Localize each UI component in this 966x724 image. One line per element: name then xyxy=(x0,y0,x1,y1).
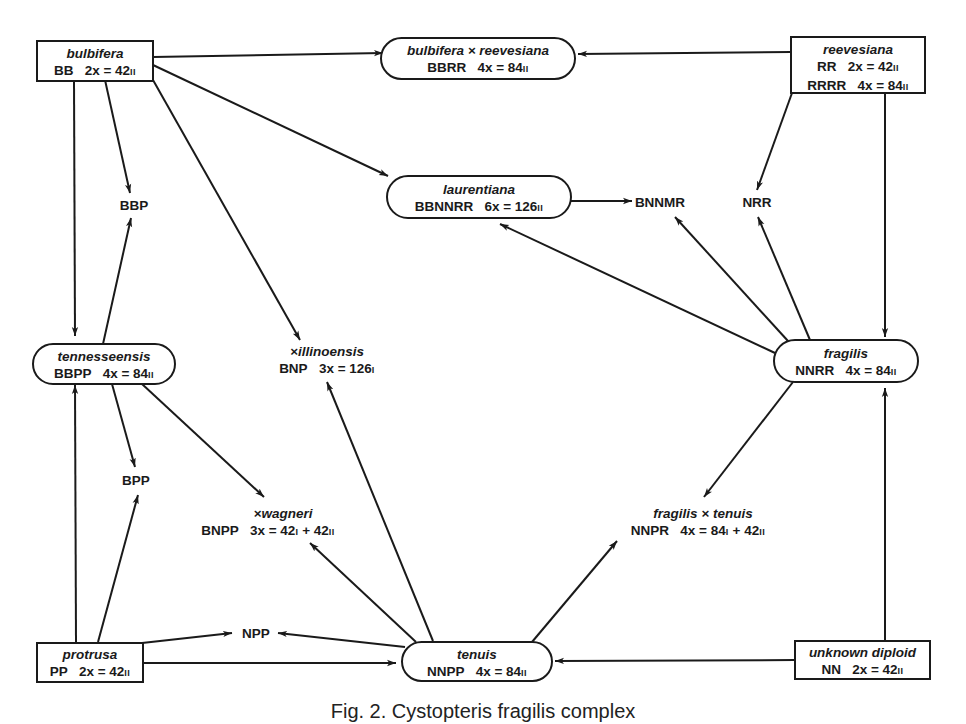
node-bulbifera-x-reevesiana: bulbifera × reevesiana BBRR 4x = 84II xyxy=(380,37,576,80)
node-laurentiana: laurentiana BBNNRR 6x = 126II xyxy=(386,175,572,219)
edge-protrusa-to-bpp xyxy=(98,495,138,642)
edge-protrusa-to-npp xyxy=(142,633,232,643)
node-fragilis: fragilis NNRR 4x = 84II xyxy=(773,339,919,383)
node-wagneri-genome: BNPP 3x = 42I + 42II xyxy=(168,522,368,541)
edge-bulbifera-to-bbp xyxy=(105,80,130,193)
node-bulbifera-x-reevesiana-name: bulbifera × reevesiana xyxy=(382,42,574,59)
node-bulbifera-name: bulbifera xyxy=(38,45,152,62)
node-bulbifera-x-reevesiana-genome: BBRR 4x = 84II xyxy=(382,59,574,78)
node-reevesiana: reevesiana RR 2x = 42II RRRR 4x = 84II xyxy=(790,36,926,94)
node-tennesseensis: tennesseensis BBPP 4x = 84II xyxy=(32,343,176,385)
node-illinoensis-name: ×illinoensis xyxy=(272,343,382,360)
node-illinoensis: ×illinoensis BNP 3x = 126I xyxy=(272,343,382,379)
node-tenuis: tenuis NNPP 4x = 84II xyxy=(401,641,553,682)
edge-bulbifera-to-laurentiana xyxy=(153,65,388,176)
edge-tenuis-to-fragilis-x-tenuis xyxy=(532,541,617,642)
node-fragilis-genome: NNRR 4x = 84II xyxy=(775,362,917,381)
node-protrusa-genome: PP 2x = 42II xyxy=(38,663,142,682)
edge-fragilis-to-bnnmr xyxy=(675,217,788,341)
node-bbp: BBP xyxy=(114,197,154,214)
node-tenuis-genome: NNPP 4x = 84II xyxy=(403,663,551,682)
edge-fragilis-to-fragilis-x-tenuis xyxy=(704,382,793,497)
edge-reevesiana-to-bulbifera-x-reevesiana xyxy=(578,52,791,54)
node-wagneri-name: ×wagneri xyxy=(168,505,368,522)
edge-reevesiana-to-nrr xyxy=(757,93,792,190)
node-unknown-diploid: unknown diploid NN 2x = 42II xyxy=(794,640,931,680)
edge-bulbifera-to-tennesseensis xyxy=(74,80,75,336)
node-tenuis-name: tenuis xyxy=(403,646,551,663)
node-laurentiana-name: laurentiana xyxy=(388,181,570,198)
node-laurentiana-genome: BBNNRR 6x = 126II xyxy=(388,198,570,217)
node-bpp: BPP xyxy=(116,472,156,489)
node-tennesseensis-genome: BBPP 4x = 84II xyxy=(34,365,174,384)
node-tennesseensis-name: tennesseensis xyxy=(34,348,174,365)
edge-fragilis-to-nrr xyxy=(758,217,810,340)
node-nrr: NRR xyxy=(737,194,777,211)
node-protrusa: protrusa PP 2x = 42II xyxy=(36,642,144,683)
edge-tennesseensis-to-wagneri xyxy=(142,384,264,497)
node-fragilis-x-tenuis: fragilis × tenuis NNPR 4x = 84I + 42II xyxy=(608,505,788,541)
edge-tennesseensis-to-bpp xyxy=(112,384,135,467)
node-bnnmr: BNNMR xyxy=(632,194,688,211)
figure-caption: Fig. 2. Cystopteris fragilis complex xyxy=(0,700,966,723)
node-npp: NPP xyxy=(236,625,276,642)
edge-bulbifera-to-illinoensis xyxy=(153,80,300,340)
node-reevesiana-name: reevesiana xyxy=(792,41,924,58)
edge-tennesseensis-to-bbp xyxy=(103,218,131,344)
node-fragilis-name: fragilis xyxy=(775,345,917,362)
node-unknown-diploid-name: unknown diploid xyxy=(796,644,929,661)
edge-tenuis-to-npp xyxy=(278,633,405,647)
node-unknown-diploid-genome: NN 2x = 42II xyxy=(796,661,929,680)
edge-protrusa-to-tennesseensis xyxy=(75,385,76,642)
node-wagneri: ×wagneri BNPP 3x = 42I + 42II xyxy=(168,505,368,541)
node-reevesiana-genome-diploid: RR 2x = 42II xyxy=(792,58,924,77)
node-fragilis-x-tenuis-name: fragilis × tenuis xyxy=(608,505,788,522)
node-fragilis-x-tenuis-genome: NNPR 4x = 84I + 42II xyxy=(608,522,788,541)
node-protrusa-name: protrusa xyxy=(38,646,142,663)
node-bulbifera-genome: BB 2x = 42II xyxy=(38,62,152,81)
node-reevesiana-genome-tetraploid: RRRR 4x = 84II xyxy=(792,77,924,96)
node-bulbifera: bulbifera BB 2x = 42II xyxy=(36,40,154,82)
edge-unknown-diploid-to-tenuis xyxy=(555,660,795,661)
edge-bulbifera-to-bulbifera-x-reevesiana xyxy=(153,53,383,57)
edge-fragilis-to-laurentiana xyxy=(500,224,775,353)
node-illinoensis-genome: BNP 3x = 126I xyxy=(272,360,382,379)
edge-tenuis-to-wagneri xyxy=(310,543,416,642)
